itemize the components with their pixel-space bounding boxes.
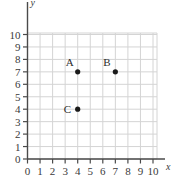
grid-lines (28, 33, 158, 159)
y-tick-label: 0 (2, 154, 21, 165)
point-label-c: C (64, 104, 71, 115)
x-tick-label: 7 (113, 166, 119, 177)
x-axis-label: x (166, 162, 170, 172)
data-point-markers (75, 69, 118, 112)
y-tick-label: 4 (2, 104, 21, 115)
y-tick-label: 5 (2, 91, 21, 102)
tick-marks (23, 35, 153, 164)
x-tick-label: 3 (62, 166, 68, 177)
y-tick-label: 9 (2, 41, 21, 52)
x-tick-label: 4 (75, 166, 81, 177)
point-label-b: B (103, 57, 110, 68)
plot-area (0, 0, 195, 187)
y-tick-label: 6 (2, 79, 21, 90)
x-tick-label: 1 (37, 166, 43, 177)
data-point-b (113, 69, 118, 74)
x-tick-label: 8 (125, 166, 131, 177)
x-tick-label: 9 (138, 166, 144, 177)
point-label-a: A (66, 57, 74, 68)
x-tick-label: 2 (50, 166, 56, 177)
data-point-c (75, 107, 80, 112)
y-tick-label: 8 (2, 54, 21, 65)
y-tick-label: 2 (2, 129, 21, 140)
y-tick-label: 1 (2, 141, 21, 152)
coordinate-plane-graph: 012345678910 012345678910 ABC x y (0, 0, 195, 187)
y-axis-label: y (31, 0, 35, 8)
data-point-a (75, 69, 80, 74)
y-tick-label: 10 (2, 29, 21, 40)
x-tick-label: 6 (100, 166, 106, 177)
x-tick-label: 5 (88, 166, 94, 177)
y-tick-label: 3 (2, 116, 21, 127)
axis-lines (28, 2, 166, 159)
x-tick-label: 10 (148, 166, 159, 177)
x-tick-label: 0 (25, 166, 31, 177)
y-tick-label: 7 (2, 66, 21, 77)
